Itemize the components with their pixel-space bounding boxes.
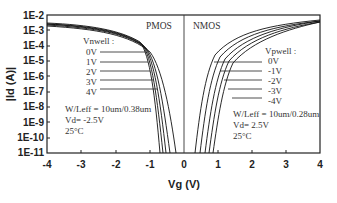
x-tick: 3: [283, 159, 289, 170]
y-tick: 1E-8: [23, 101, 45, 112]
left-condition: W/Leff = 10um/0.38um: [65, 104, 151, 114]
x-tick: 0: [181, 159, 187, 170]
legend-entry: 0V: [268, 56, 280, 66]
pmos-label: PMOS: [146, 21, 172, 31]
right-legend-title: Vpwell :: [265, 46, 296, 56]
y-tick: 1E-2: [23, 10, 45, 21]
x-tick-labels: -4 -3 -2 -1 0 1 2 3 4: [43, 159, 324, 170]
nmos-label: NMOS: [193, 21, 220, 31]
y-tick: 1E-3: [23, 25, 45, 36]
y-tick: 1E-6: [23, 71, 45, 82]
x-tick: 4: [317, 159, 323, 170]
left-legend: Vnwell : 0V 1V 2V 3V 4V W/Leff = 10um/0.…: [65, 36, 157, 136]
x-tick: -2: [112, 159, 121, 170]
legend-entry: 4V: [86, 87, 98, 97]
y-tick: 1E-11: [18, 147, 45, 158]
x-tick: -1: [146, 159, 155, 170]
legend-entry: 0V: [86, 47, 98, 57]
legend-entry: 1V: [86, 57, 98, 67]
legend-entry: 2V: [86, 67, 98, 77]
y-axis-title: |Id (A)|: [4, 67, 16, 101]
y-tick: 1E-9: [23, 117, 45, 128]
x-tick: 2: [249, 159, 255, 170]
y-tick: 1E-4: [23, 40, 45, 51]
id-vg-chart: 1E-2 1E-3 1E-4 1E-5 1E-6 1E-7 1E-8 1E-9 …: [0, 0, 337, 203]
x-tick: -3: [77, 159, 86, 170]
right-condition: Vd= 2.5V: [233, 120, 270, 130]
x-tick: -4: [43, 159, 52, 170]
right-condition: 25°C: [233, 131, 252, 141]
legend-entry: 3V: [86, 77, 98, 87]
x-tick: 1: [215, 159, 221, 170]
legend-entry: -3V: [268, 86, 282, 96]
legend-entry: -4V: [268, 96, 282, 106]
left-condition: Vd= -2.5V: [65, 115, 105, 125]
y-tick-labels: 1E-2 1E-3 1E-4 1E-5 1E-6 1E-7 1E-8 1E-9 …: [17, 10, 44, 158]
legend-entry: -2V: [268, 76, 282, 86]
y-tick: 1E-7: [23, 86, 45, 97]
left-condition: 25°C: [65, 126, 84, 136]
legend-entry: -1V: [268, 66, 282, 76]
y-tick: 1E-5: [23, 55, 45, 66]
y-tick: 1E-10: [17, 132, 44, 143]
x-axis-title: Vg (V): [168, 178, 200, 190]
nmos-curves: [195, 20, 320, 153]
right-condition: W/Leff = 10um/0.28um: [233, 109, 319, 119]
left-legend-title: Vnwell :: [83, 36, 114, 46]
